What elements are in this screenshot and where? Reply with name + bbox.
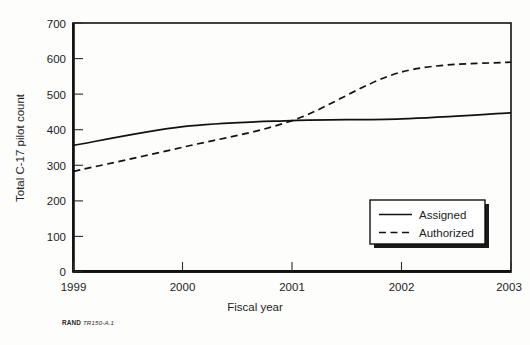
figure-container: 700 600 500 400 300 200 100 0 1999 2000 …	[0, 0, 530, 345]
x-axis-ticks	[74, 262, 512, 271]
rand-logo-text: RAND	[62, 319, 81, 326]
y-axis-tick-labels: 700 600 500 400 300 200 100 0	[47, 18, 66, 278]
x-tick-label: 1999	[61, 281, 87, 293]
x-axis-tick-labels: 1999 2000 2001 2002 2003	[61, 281, 522, 293]
legend-label-authorized: Authorized	[419, 227, 474, 239]
x-tick-label: 2000	[170, 281, 196, 293]
y-tick-label: 300	[47, 160, 66, 172]
x-tick-label: 2002	[389, 281, 415, 293]
line-chart: 700 600 500 400 300 200 100 0 1999 2000 …	[0, 0, 530, 345]
y-axis-title: Total C-17 pilot count	[14, 93, 26, 202]
y-tick-label: 400	[47, 124, 66, 136]
y-axis-ticks	[74, 23, 83, 271]
y-tick-label: 600	[47, 53, 66, 65]
y-tick-label: 0	[60, 266, 66, 278]
legend-label-assigned: Assigned	[419, 209, 466, 221]
x-axis-title: Fiscal year	[227, 301, 283, 313]
y-tick-label: 100	[47, 231, 66, 243]
y-tick-label: 700	[47, 18, 66, 30]
figure-source-caption: RAND TR150-A.1	[62, 319, 114, 326]
series-line-assigned	[74, 113, 512, 146]
x-tick-label: 2003	[496, 281, 522, 293]
x-tick-label: 2001	[279, 281, 305, 293]
y-tick-label: 500	[47, 89, 66, 101]
y-tick-label: 200	[47, 195, 66, 207]
document-id-text: TR150-A.1	[83, 319, 114, 326]
